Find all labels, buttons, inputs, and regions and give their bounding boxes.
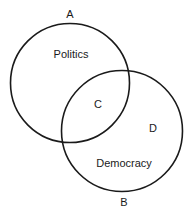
circle-b	[62, 71, 183, 192]
venn-diagram: A Politics C D Democracy B	[0, 0, 192, 219]
set-b-label: B	[120, 196, 127, 208]
region-d-label: D	[149, 122, 157, 134]
set-a-label: A	[66, 8, 73, 20]
intersection-label: C	[94, 98, 102, 110]
set-a-name: Politics	[54, 48, 89, 60]
set-b-name: Democracy	[96, 157, 152, 169]
circle-a	[11, 24, 130, 143]
